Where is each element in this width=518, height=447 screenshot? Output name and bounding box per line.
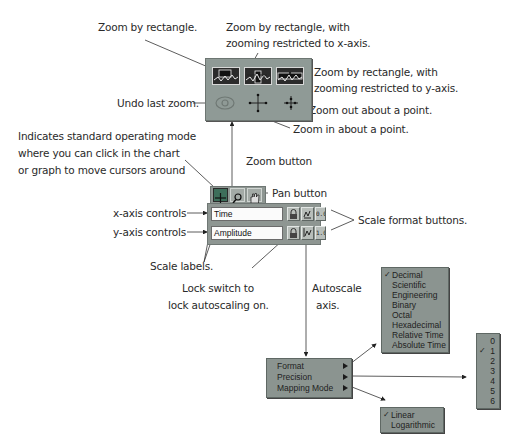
annotation-pan-button: Pan button: [272, 185, 327, 201]
x-autoscale-icon: [302, 208, 313, 220]
zoom-button[interactable]: [230, 188, 245, 202]
zoom-out-point-button[interactable]: [280, 92, 302, 114]
menu-item-precision[interactable]: Precision: [267, 372, 351, 382]
submenu-arrow-icon: [343, 374, 348, 380]
zoom-out-point-icon: [280, 92, 302, 114]
menu-item-decimal[interactable]: ✓Decimal: [382, 270, 448, 280]
check-icon: ✓: [384, 270, 391, 280]
annotation-scale-labels: Scale labels.: [150, 258, 213, 274]
menu-item-scientific[interactable]: Scientific: [382, 280, 448, 290]
annotation-zoom-rectangle: Zoom by rectangle.: [98, 19, 197, 35]
undo-zoom-icon: [214, 92, 236, 114]
annotation-undo-zoom: Undo last zoom.: [117, 95, 199, 111]
menu-item-precision-6[interactable]: 6: [477, 396, 499, 406]
lock-icon: [288, 227, 299, 239]
mapping-mode-submenu: ✓Linear Logarithmic: [380, 407, 444, 433]
annotation-x-axis-controls: x-axis controls: [113, 205, 186, 221]
annotation-zoom-button: Zoom button: [246, 153, 312, 169]
menu-item-octal[interactable]: Octal: [382, 310, 448, 320]
undo-zoom-button[interactable]: [214, 92, 236, 114]
x-lock-button[interactable]: [287, 207, 300, 221]
submenu-arrow-icon: [343, 385, 348, 391]
zoom-rectangle-button[interactable]: [212, 67, 240, 85]
annotation-zoom-y-line1: Zoom by rectangle, with: [314, 64, 438, 80]
zoom-rectangle-icon: [213, 68, 239, 84]
y-restrict-marker: [288, 61, 292, 80]
annotation-scale-format-buttons: Scale format buttons.: [358, 212, 467, 228]
menu-item-logarithmic[interactable]: Logarithmic: [381, 420, 443, 430]
y-autoscale-icon: [302, 227, 313, 239]
check-icon: ✓: [383, 410, 390, 420]
x-scale-label-field[interactable]: Time: [211, 207, 283, 221]
menu-item-precision-4[interactable]: 4: [477, 376, 499, 386]
scale-legend: Time 0.0 Amplitude 1.0: [207, 203, 321, 245]
annotation-zoom-x-line1: Zoom by rectangle, with: [226, 19, 350, 35]
zoom-in-point-icon: [247, 92, 269, 114]
annotation-autoscale-line1: Autoscale: [312, 280, 362, 296]
zoom-palette: [205, 58, 312, 121]
y-autoscale-button[interactable]: [301, 226, 314, 240]
annotation-standard-mode-line1: Indicates standard operating mode: [18, 128, 196, 144]
annotation-zoom-in: Zoom in about a point.: [293, 121, 409, 137]
menu-item-precision-5[interactable]: 5: [477, 386, 499, 396]
standard-mode-button[interactable]: [213, 188, 228, 202]
lock-icon: [288, 208, 299, 220]
scale-format-menu: Format Precision Mapping Mode: [266, 358, 352, 398]
x-scale-format-button[interactable]: 0.0: [315, 207, 326, 221]
x-autoscale-button[interactable]: [301, 207, 314, 221]
annotation-zoom-out: Zoom out about a point.: [309, 102, 432, 118]
menu-item-binary[interactable]: Binary: [382, 300, 448, 310]
format-submenu: ✓Decimal Scientific Engineering Binary O…: [381, 267, 449, 353]
zoom-in-point-button[interactable]: [247, 92, 269, 114]
annotation-zoom-x-line2: zooming restricted to x-axis.: [226, 35, 370, 51]
y-scale-label-field[interactable]: Amplitude: [211, 226, 283, 240]
menu-item-precision-0[interactable]: 0: [477, 336, 499, 346]
menu-item-engineering[interactable]: Engineering: [382, 290, 448, 300]
annotation-lock-switch-line2: lock autoscaling on.: [168, 297, 269, 313]
menu-item-mapping-mode[interactable]: Mapping Mode: [267, 383, 351, 393]
annotation-zoom-y-line2: zooming restricted to y-axis.: [314, 80, 458, 96]
check-icon: ✓: [479, 346, 486, 356]
annotation-lock-switch-line1: Lock switch to: [182, 280, 254, 296]
pan-button[interactable]: [247, 188, 262, 202]
annotation-standard-mode-line2: where you can click in the chart: [18, 145, 180, 161]
menu-item-precision-2[interactable]: 2: [477, 356, 499, 366]
y-lock-button[interactable]: [287, 226, 300, 240]
menu-item-format[interactable]: Format: [267, 361, 351, 371]
menu-item-absolute-time[interactable]: Absolute Time: [382, 340, 448, 350]
y-scale-format-button[interactable]: 1.0: [315, 226, 326, 240]
menu-item-precision-3[interactable]: 3: [477, 366, 499, 376]
precision-submenu: 0 ✓1 2 3 4 5 6: [476, 333, 500, 409]
annotation-y-axis-controls: y-axis controls: [113, 224, 186, 240]
menu-item-hexadecimal[interactable]: Hexadecimal: [382, 320, 448, 330]
submenu-arrow-icon: [343, 363, 348, 369]
annotation-autoscale-line2: axis.: [316, 297, 339, 313]
menu-item-linear[interactable]: ✓Linear: [381, 410, 443, 420]
x-restrict-marker: [246, 62, 268, 65]
annotation-standard-mode-line3: or graph to move cursors around: [18, 162, 185, 178]
menu-item-relative-time[interactable]: Relative Time: [382, 330, 448, 340]
menu-item-precision-1[interactable]: ✓1: [477, 346, 499, 356]
